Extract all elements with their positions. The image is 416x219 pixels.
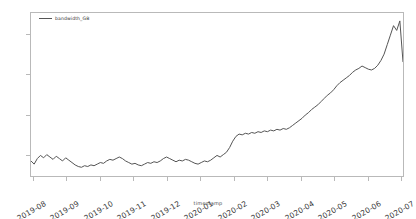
x-axis-tick-mark — [200, 177, 201, 181]
x-axis-tick-mark — [301, 177, 302, 181]
x-axis-tick-mark — [401, 177, 402, 181]
x-axis-tick-mark — [234, 177, 235, 181]
x-axis-tick-mark — [66, 177, 67, 181]
x-axis-tick-mark — [267, 177, 268, 181]
chart-figure: bandwidth_GB 750800850900 2019-082019-09… — [0, 0, 416, 219]
x-axis-tick-mark — [167, 177, 168, 181]
x-axis-tick-mark — [368, 177, 369, 181]
x-axis-tick-mark — [334, 177, 335, 181]
x-axis-tick-mark — [133, 177, 134, 181]
x-axis-tick-mark — [100, 177, 101, 181]
x-axis: 2019-082019-092019-102019-112019-122020-… — [0, 0, 416, 219]
x-axis-tick-mark — [33, 177, 34, 181]
x-axis-title: timestamp — [0, 200, 416, 206]
